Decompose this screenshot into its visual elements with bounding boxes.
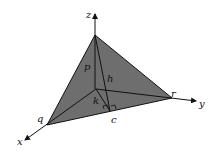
label-x-axis: x	[17, 136, 23, 147]
label-k: k	[93, 95, 99, 106]
label-r: r	[171, 88, 177, 99]
tetrahedron-diagram: z x y q r c p h k	[0, 0, 218, 152]
label-y-axis: y	[198, 98, 205, 109]
label-q: q	[37, 113, 43, 124]
label-z-axis: z	[85, 9, 92, 20]
label-h: h	[107, 73, 113, 84]
label-p: p	[84, 61, 91, 72]
label-c: c	[111, 114, 117, 125]
